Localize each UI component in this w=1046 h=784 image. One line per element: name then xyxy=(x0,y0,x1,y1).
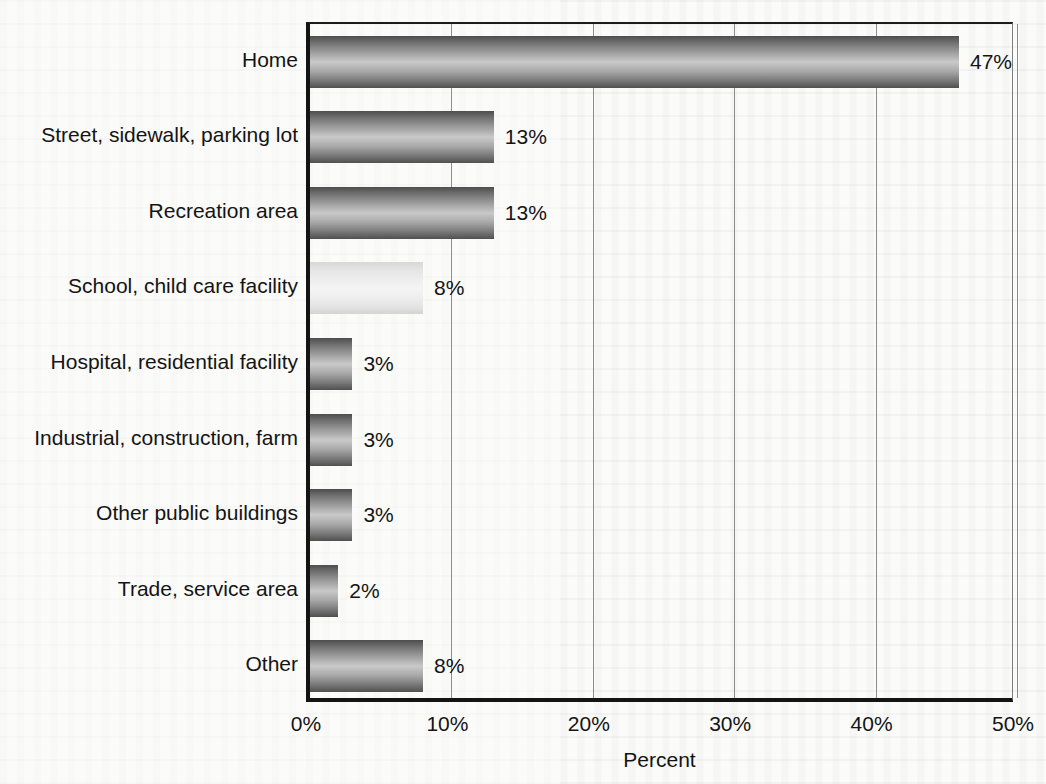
category-label: Other public buildings xyxy=(0,501,298,525)
bar-row: 8% xyxy=(310,251,1012,327)
bar xyxy=(310,262,423,314)
bar-value-label: 8% xyxy=(434,276,464,300)
plot-area: 47%13%13%8%3%3%3%2%8% xyxy=(306,22,1013,702)
bar-row: 13% xyxy=(310,175,1012,251)
category-label: Other xyxy=(0,652,298,676)
category-label: Home xyxy=(0,48,298,72)
bar-value-label: 47% xyxy=(970,50,1012,74)
bar xyxy=(310,187,494,239)
bar-row: 13% xyxy=(310,100,1012,176)
bar xyxy=(310,489,352,541)
category-label: Industrial, construction, farm xyxy=(0,426,298,450)
category-label: Recreation area xyxy=(0,199,298,223)
bar-row: 8% xyxy=(310,628,1012,704)
bar-row: 3% xyxy=(310,402,1012,478)
bar-row: 2% xyxy=(310,553,1012,629)
bar-value-label: 8% xyxy=(434,654,464,678)
bar-value-label: 2% xyxy=(349,579,379,603)
bar xyxy=(310,565,338,617)
bar-value-label: 13% xyxy=(505,125,547,149)
gridline xyxy=(1017,24,1018,698)
bar xyxy=(310,640,423,692)
bar-row: 47% xyxy=(310,24,1012,100)
bar-row: 3% xyxy=(310,326,1012,402)
bar-value-label: 3% xyxy=(363,428,393,452)
bar-row: 3% xyxy=(310,477,1012,553)
x-axis-tick-label: 30% xyxy=(709,712,751,736)
x-axis-tick-label: 0% xyxy=(291,712,321,736)
category-label: Hospital, residential facility xyxy=(0,350,298,374)
x-axis-tick-label: 40% xyxy=(851,712,893,736)
x-axis-title: Percent xyxy=(306,748,1013,772)
x-axis-tick-label: 10% xyxy=(426,712,468,736)
category-label: Trade, service area xyxy=(0,577,298,601)
bar-value-label: 3% xyxy=(363,352,393,376)
bar-value-label: 3% xyxy=(363,503,393,527)
chart-page: HomeStreet, sidewalk, parking lotRecreat… xyxy=(0,0,1046,784)
x-axis-tick-label: 50% xyxy=(992,712,1034,736)
bar-value-label: 13% xyxy=(505,201,547,225)
x-axis-tick-label: 20% xyxy=(568,712,610,736)
bar xyxy=(310,111,494,163)
bar xyxy=(310,36,959,88)
bar xyxy=(310,338,352,390)
bar xyxy=(310,414,352,466)
category-label: School, child care facility xyxy=(0,274,298,298)
category-label: Street, sidewalk, parking lot xyxy=(0,123,298,147)
